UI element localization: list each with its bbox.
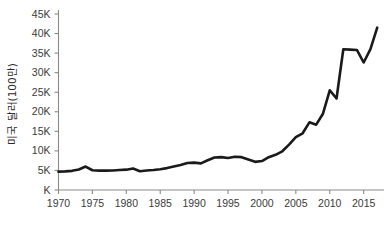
- x-tick-label: 1970: [47, 197, 71, 209]
- y-tick-label: 10K: [32, 144, 51, 156]
- y-tick-label: 20K: [32, 105, 51, 117]
- x-tick-label: 1995: [216, 197, 240, 209]
- series-line: [59, 28, 378, 172]
- x-tick-label: 2005: [284, 197, 308, 209]
- x-tick-label: 2000: [250, 197, 274, 209]
- y-tick-label: 15K: [32, 125, 51, 137]
- y-tick-label: 30K: [32, 66, 51, 78]
- y-tick-label: 25K: [32, 86, 51, 98]
- line-chart: 미국 달러(100만) K5K10K15K20K25K30K35K40K45K …: [0, 0, 389, 227]
- y-tick-label: 5K: [38, 164, 51, 176]
- y-axis-title: 미국 달러(100만): [6, 63, 18, 145]
- x-axis-tick-labels: 1970197519801985199019952000200520102015: [47, 197, 376, 209]
- x-tick-label: 1975: [81, 197, 105, 209]
- x-tick-label: 2010: [318, 197, 342, 209]
- x-tick-label: 2015: [352, 197, 376, 209]
- x-tick-label: 1985: [149, 197, 173, 209]
- y-tick-label: 35K: [32, 47, 51, 59]
- y-axis-tick-labels: K5K10K15K20K25K30K35K40K45K: [32, 8, 51, 196]
- y-tick-label: 45K: [32, 8, 51, 20]
- x-tick-label: 1980: [115, 197, 139, 209]
- y-tick-label: K: [43, 184, 50, 196]
- y-tick-label: 40K: [32, 27, 51, 39]
- chart-axes: [55, 10, 385, 194]
- chart-series-group: [59, 28, 378, 172]
- chart-container: 미국 달러(100만) K5K10K15K20K25K30K35K40K45K …: [0, 0, 389, 227]
- x-tick-label: 1990: [182, 197, 206, 209]
